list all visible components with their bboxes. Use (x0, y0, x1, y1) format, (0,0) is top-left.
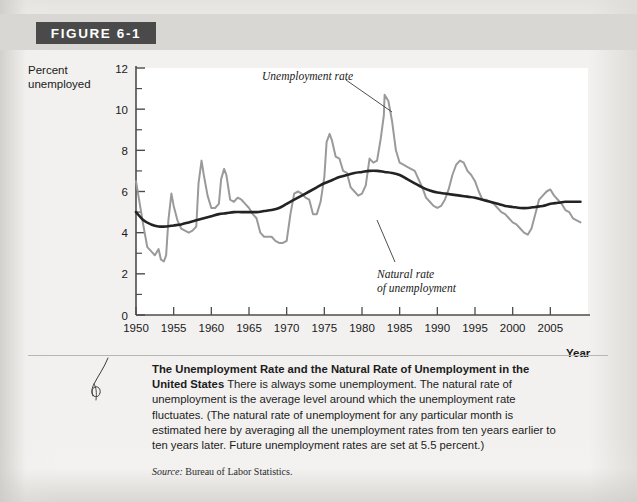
y-axis-title-line2: unemployed (28, 77, 108, 91)
annotation-natural-line1: Natural rate (377, 268, 456, 282)
x-axis-title: Year (566, 346, 590, 360)
chart-plot-area: 024681012 195019551960196519701975198019… (0, 50, 637, 350)
figure-caption: The Unemployment Rate and the Natural Ra… (152, 362, 556, 453)
svg-text:6: 6 (122, 186, 128, 198)
source-text: Bureau of Labor Statistics. (185, 466, 292, 477)
svg-text:1990: 1990 (425, 322, 451, 334)
svg-text:10: 10 (115, 104, 128, 116)
annotation-natural-rate: Natural rate of unemployment (377, 268, 456, 295)
svg-text:1980: 1980 (349, 322, 375, 334)
svg-text:0: 0 (122, 310, 128, 322)
svg-text:4: 4 (122, 227, 129, 239)
caption-source: Source: Bureau of Labor Statistics. (152, 466, 292, 477)
svg-text:1975: 1975 (312, 322, 338, 334)
svg-text:2: 2 (122, 268, 128, 280)
annotation-unemployment-rate: Unemployment rate (262, 70, 353, 84)
figure-number-tag: FIGURE 6-1 (36, 22, 156, 44)
y-axis-title: Percent unemployed (28, 63, 108, 91)
svg-text:2000: 2000 (500, 322, 526, 334)
svg-text:1970: 1970 (274, 322, 300, 334)
svg-text:1955: 1955 (161, 322, 187, 334)
svg-text:1995: 1995 (462, 322, 488, 334)
svg-text:1950: 1950 (123, 322, 149, 334)
annotation-natural-line2: of unemployment (377, 282, 456, 296)
unemployment-chart: 024681012 195019551960196519701975198019… (0, 50, 637, 350)
svg-text:8: 8 (122, 145, 128, 157)
svg-text:2005: 2005 (538, 322, 564, 334)
figure-page: FIGURE 6-1 024681012 1950195519601965197… (0, 0, 637, 502)
svg-text:1960: 1960 (199, 322, 225, 334)
svg-text:1965: 1965 (236, 322, 262, 334)
y-tick-labels: 024681012 (115, 63, 128, 322)
pen-flourish-icon (84, 356, 118, 404)
source-label: Source: (152, 466, 183, 477)
svg-text:12: 12 (115, 63, 128, 75)
svg-text:1985: 1985 (387, 322, 413, 334)
y-axis-title-line1: Percent (28, 63, 108, 77)
x-tick-labels: 1950195519601965197019751980198519901995… (123, 322, 563, 334)
